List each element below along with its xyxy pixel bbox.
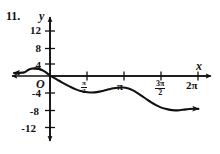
graph-figure: 11. y x 12 8 4 O -4 -8 -12 π 2 π 3π 2 2π <box>0 0 220 154</box>
y-axis-label: y <box>39 10 44 22</box>
y-tick-label-8: 8 <box>15 43 41 54</box>
x-tick-label-3pi-over-2: 3π 2 <box>155 80 165 97</box>
x-axis-label: x <box>196 60 202 72</box>
y-tick-label-minus-4: -4 <box>15 88 41 99</box>
y-tick-label-12: 12 <box>15 25 41 36</box>
x-tick-label-pi-over-2: π 2 <box>81 80 87 95</box>
fraction-pi-over-2: π 2 <box>81 80 87 95</box>
fraction-3pi-over-2: 3π 2 <box>155 80 165 97</box>
y-tick-label-minus-12: -12 <box>10 123 36 134</box>
x-tick-label-pi: π <box>117 81 123 92</box>
problem-number: 11. <box>6 10 20 22</box>
y-tick-label-4: 4 <box>15 60 41 71</box>
y-tick-label-minus-8: -8 <box>13 106 39 117</box>
x-tick-label-2pi: 2π <box>186 80 198 91</box>
fraction-denominator: 2 <box>155 89 165 97</box>
fraction-denominator: 2 <box>81 88 87 95</box>
